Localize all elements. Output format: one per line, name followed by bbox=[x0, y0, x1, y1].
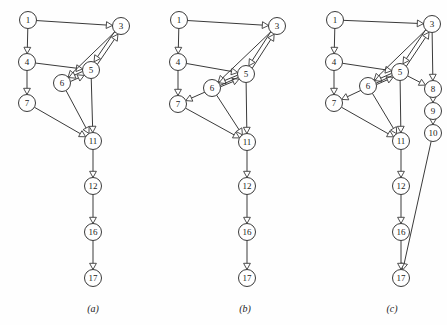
node-label-6: 6 bbox=[210, 83, 215, 93]
arrowhead-5-to-11 bbox=[397, 126, 404, 132]
node-label-17: 17 bbox=[397, 273, 407, 283]
node-7[interactable]: 7 bbox=[170, 96, 187, 113]
node-6[interactable]: 6 bbox=[204, 80, 221, 97]
node-6[interactable]: 6 bbox=[360, 78, 377, 95]
node-label-7: 7 bbox=[332, 98, 337, 108]
node-label-16: 16 bbox=[89, 227, 99, 237]
node-label-12: 12 bbox=[397, 181, 406, 191]
node-label-5: 5 bbox=[89, 65, 94, 75]
panel-c-edges bbox=[331, 20, 437, 270]
edge-5-to-8 bbox=[408, 76, 421, 83]
arrowhead-12-to-16 bbox=[244, 217, 251, 223]
edge-4-to-5 bbox=[35, 63, 77, 68]
panel-a-edges bbox=[24, 21, 118, 270]
node-12[interactable]: 12 bbox=[393, 178, 410, 195]
node-label-17: 17 bbox=[89, 273, 99, 283]
node-17[interactable]: 17 bbox=[239, 270, 256, 287]
edge-6-to-11 bbox=[217, 95, 240, 130]
edge-1-to-3 bbox=[343, 20, 417, 23]
node-6[interactable]: 6 bbox=[54, 75, 71, 92]
edge-5-to-11 bbox=[400, 80, 401, 126]
node-10[interactable]: 10 bbox=[425, 125, 442, 142]
node-3[interactable]: 3 bbox=[424, 16, 441, 33]
node-5[interactable]: 5 bbox=[83, 62, 100, 79]
node-label-16: 16 bbox=[243, 227, 253, 237]
edge-5-to-11 bbox=[246, 82, 247, 127]
node-16[interactable]: 16 bbox=[239, 224, 256, 241]
panel-c: 134567891011121617 bbox=[326, 12, 442, 287]
node-11[interactable]: 11 bbox=[85, 133, 102, 150]
node-1[interactable]: 1 bbox=[171, 12, 188, 29]
node-label-1: 1 bbox=[333, 15, 338, 25]
captions-layer: (a)(b)(c) bbox=[87, 303, 398, 315]
node-16[interactable]: 16 bbox=[393, 224, 410, 241]
edge-5-to-11 bbox=[91, 78, 92, 126]
panel-b-nodes: 13456711121617 bbox=[170, 12, 286, 287]
node-label-12: 12 bbox=[89, 181, 98, 191]
node-9[interactable]: 9 bbox=[425, 103, 442, 120]
edge-5-to-3 bbox=[98, 39, 115, 64]
node-17[interactable]: 17 bbox=[393, 270, 410, 287]
edge-7-to-11 bbox=[34, 107, 80, 134]
node-1[interactable]: 1 bbox=[20, 12, 37, 29]
node-12[interactable]: 12 bbox=[85, 178, 102, 195]
node-label-16: 16 bbox=[397, 227, 407, 237]
edge-7-to-11 bbox=[341, 107, 388, 134]
node-7[interactable]: 7 bbox=[326, 95, 343, 112]
node-4[interactable]: 4 bbox=[326, 54, 343, 71]
node-label-7: 7 bbox=[176, 99, 181, 109]
node-7[interactable]: 7 bbox=[19, 95, 36, 112]
node-label-11: 11 bbox=[89, 136, 98, 146]
node-4[interactable]: 4 bbox=[170, 54, 187, 71]
node-label-6: 6 bbox=[366, 81, 371, 91]
node-label-12: 12 bbox=[243, 181, 252, 191]
edge-4-to-5 bbox=[342, 63, 386, 70]
edge-10-to-17 bbox=[404, 141, 431, 264]
node-1[interactable]: 1 bbox=[327, 12, 344, 29]
node-5[interactable]: 5 bbox=[392, 64, 409, 81]
panel-a-nodes: 13456711121617 bbox=[19, 12, 130, 287]
arrowhead-5-to-7 bbox=[342, 94, 349, 100]
node-17[interactable]: 17 bbox=[85, 270, 102, 287]
node-label-6: 6 bbox=[60, 78, 65, 88]
arrowhead-3-to-8 bbox=[429, 74, 436, 80]
arrowhead-12-to-16 bbox=[90, 217, 97, 223]
panels-layer: 1345671112161713456711121617134567891011… bbox=[19, 12, 442, 287]
node-label-11: 11 bbox=[397, 136, 406, 146]
arrowhead-4-to-7 bbox=[331, 88, 338, 94]
edge-1-to-3 bbox=[187, 21, 262, 26]
node-label-4: 4 bbox=[176, 57, 181, 67]
arrowhead-5-to-7 bbox=[186, 95, 193, 101]
figure-container: 1345671112161713456711121617134567891011… bbox=[0, 0, 447, 325]
arrowhead-1-to-4 bbox=[24, 47, 31, 53]
arrowhead-6-to-5 bbox=[77, 75, 84, 81]
node-label-1: 1 bbox=[177, 15, 182, 25]
node-8[interactable]: 8 bbox=[425, 81, 442, 98]
node-16[interactable]: 16 bbox=[85, 224, 102, 241]
arrowhead-1-to-3 bbox=[417, 20, 423, 27]
node-label-5: 5 bbox=[244, 69, 249, 79]
node-4[interactable]: 4 bbox=[19, 54, 36, 71]
node-label-8: 8 bbox=[431, 84, 436, 94]
node-11[interactable]: 11 bbox=[393, 133, 410, 150]
panel-c-nodes: 134567891011121617 bbox=[326, 12, 442, 287]
node-5[interactable]: 5 bbox=[238, 66, 255, 83]
caption-panel-b: (b) bbox=[239, 303, 251, 315]
node-label-3: 3 bbox=[119, 21, 124, 31]
edge-3-to-8 bbox=[432, 32, 433, 74]
node-label-1: 1 bbox=[26, 15, 31, 25]
node-label-3: 3 bbox=[275, 21, 280, 31]
edge-3-to-5 bbox=[406, 30, 425, 59]
arrowhead-11-to-12 bbox=[90, 171, 97, 177]
node-3[interactable]: 3 bbox=[269, 18, 286, 35]
arrowhead-1-to-4 bbox=[331, 47, 338, 53]
node-label-7: 7 bbox=[25, 98, 30, 108]
node-12[interactable]: 12 bbox=[239, 178, 256, 195]
edge-3-to-5 bbox=[97, 32, 114, 57]
node-11[interactable]: 11 bbox=[239, 134, 256, 151]
node-label-4: 4 bbox=[332, 57, 337, 67]
node-3[interactable]: 3 bbox=[113, 18, 130, 35]
arrowhead-4-to-7 bbox=[24, 88, 31, 94]
node-label-4: 4 bbox=[25, 57, 30, 67]
arrowhead-5-to-11 bbox=[243, 127, 250, 133]
